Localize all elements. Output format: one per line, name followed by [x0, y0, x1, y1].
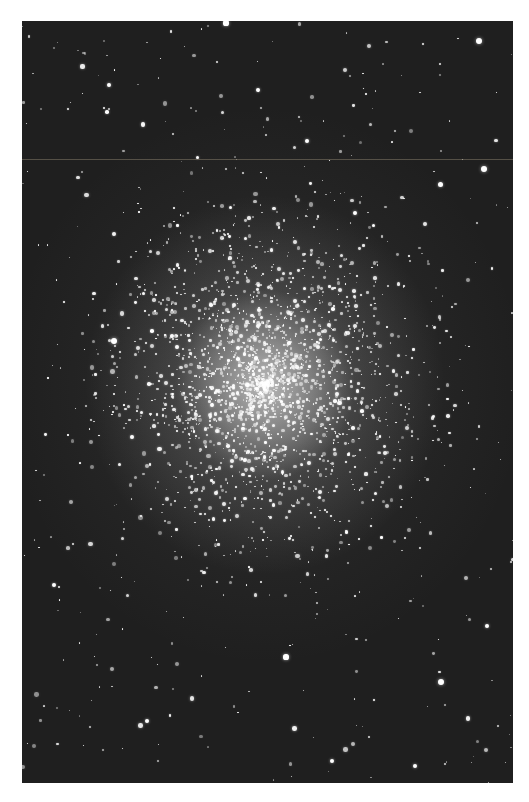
star	[152, 298, 155, 301]
star	[390, 342, 391, 343]
star	[244, 219, 247, 222]
star	[362, 345, 364, 347]
star	[231, 434, 234, 437]
star	[360, 294, 363, 297]
star	[219, 230, 221, 232]
star	[227, 373, 228, 374]
star	[203, 390, 205, 392]
star	[231, 392, 235, 396]
star	[464, 576, 468, 580]
star	[173, 207, 175, 209]
star	[451, 306, 453, 308]
star	[427, 263, 429, 265]
star	[34, 692, 38, 696]
star	[174, 551, 176, 553]
star	[408, 408, 409, 409]
star	[450, 336, 452, 338]
star	[188, 441, 190, 443]
star	[293, 311, 294, 312]
star	[323, 276, 326, 279]
star	[433, 171, 434, 172]
star	[183, 383, 184, 384]
star	[71, 439, 75, 443]
star	[295, 383, 298, 386]
star	[160, 302, 162, 304]
star	[69, 257, 70, 258]
star	[276, 316, 278, 318]
star	[370, 408, 372, 410]
star	[432, 440, 434, 442]
star	[118, 413, 122, 417]
star	[170, 310, 174, 314]
star	[211, 363, 212, 364]
star	[174, 302, 176, 304]
star	[188, 356, 190, 358]
star	[169, 341, 171, 343]
star	[145, 464, 149, 468]
star	[371, 348, 373, 350]
star	[358, 340, 360, 342]
star	[313, 490, 314, 491]
star	[127, 405, 130, 408]
star	[377, 264, 378, 265]
star	[284, 337, 286, 339]
star	[192, 54, 195, 57]
star	[253, 372, 255, 374]
star	[292, 539, 295, 542]
star	[238, 253, 240, 255]
star	[230, 459, 234, 463]
star	[191, 404, 193, 406]
star	[127, 327, 129, 329]
star	[193, 481, 195, 483]
star	[22, 765, 25, 770]
star	[253, 508, 254, 509]
star	[317, 215, 319, 217]
star	[348, 424, 349, 425]
star	[209, 386, 210, 387]
star	[161, 512, 162, 513]
star	[207, 427, 209, 429]
star	[208, 290, 209, 291]
star	[224, 370, 225, 371]
star	[332, 329, 333, 330]
star	[185, 420, 186, 421]
star	[271, 353, 273, 355]
star	[279, 364, 281, 366]
star	[292, 277, 294, 279]
star	[378, 344, 382, 348]
star	[438, 182, 443, 187]
star	[305, 450, 307, 452]
star	[360, 409, 364, 413]
star	[209, 357, 211, 359]
star	[384, 458, 385, 459]
star	[293, 299, 297, 303]
star	[189, 465, 191, 467]
star	[235, 379, 237, 381]
star	[345, 306, 347, 308]
star	[403, 286, 404, 287]
star	[201, 474, 203, 476]
star	[103, 309, 105, 311]
star	[393, 540, 396, 543]
star	[429, 531, 432, 534]
star	[197, 474, 198, 475]
star	[67, 434, 68, 435]
star	[285, 405, 289, 409]
star	[182, 357, 184, 359]
star	[354, 698, 355, 699]
star	[137, 398, 139, 400]
star	[359, 591, 360, 592]
star	[174, 419, 175, 420]
star	[386, 412, 387, 413]
star	[144, 366, 146, 368]
star	[80, 612, 81, 613]
star	[186, 323, 188, 325]
star	[419, 547, 421, 549]
star	[353, 324, 357, 328]
star	[262, 475, 264, 477]
star	[241, 504, 244, 507]
star	[272, 392, 274, 394]
star	[280, 413, 281, 414]
star	[468, 346, 470, 348]
star	[444, 763, 446, 765]
